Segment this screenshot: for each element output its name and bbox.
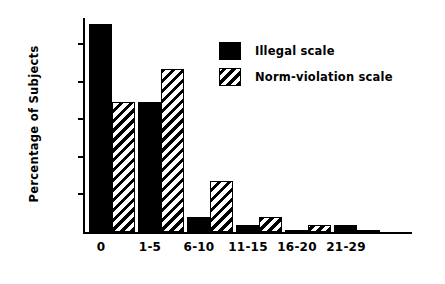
bar-illegal [89,24,112,232]
bar-norm-violation [357,230,380,232]
y-tick-mark [78,43,83,45]
y-tick-mark [78,81,83,83]
bar-illegal [138,102,161,232]
bar-norm-violation [308,225,331,233]
bar-illegal [187,217,210,232]
x-tick-label: 0 [76,240,126,254]
hatched-square-swatch-icon [219,68,241,86]
bar-group [89,18,135,232]
y-tick-mark [78,156,83,158]
bar-illegal [334,225,357,233]
y-axis-title: Percentage of Subjects [27,14,41,234]
bar-group [138,18,184,232]
x-tick-label: 11-15 [223,240,273,254]
y-tick-mark [78,193,83,195]
bar-norm-violation [112,102,135,232]
y-tick-mark [78,118,83,120]
chart-legend: Illegal scaleNorm-violation scale [219,38,434,90]
x-tick-label: 6-10 [174,240,224,254]
x-tick-label: 21-29 [321,240,371,254]
x-axis-line [83,232,412,234]
bar-norm-violation [210,181,233,232]
bar-illegal [285,230,308,232]
legend-label: Norm-violation scale [255,70,393,84]
bar-illegal [236,225,259,233]
legend-item: Norm-violation scale [219,64,434,90]
bar-chart-figure: Percentage of Subjects 1020304050 01-56-… [0,0,445,284]
solid-square-swatch-icon [219,42,241,60]
bar-norm-violation [259,217,282,232]
legend-label: Illegal scale [255,44,335,58]
x-tick-label: 1-5 [125,240,175,254]
bar-norm-violation [161,69,184,232]
x-tick-label: 16-20 [272,240,322,254]
legend-item: Illegal scale [219,38,434,64]
